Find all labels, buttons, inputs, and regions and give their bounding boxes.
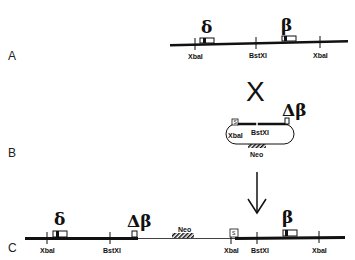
delta-gene-box xyxy=(200,38,214,43)
gene-targeting-diagram: A B C δ β XbaI BstXI XbaI X S xyxy=(0,0,355,260)
panel-c-locus: S δ Δβ β Neo XbaI BstXI XbaI BstXI XbaI xyxy=(25,207,345,254)
site-bstxi: BstXI xyxy=(103,247,121,254)
delta-gene-label: δ xyxy=(54,209,65,229)
panel-label-c: C xyxy=(8,241,17,255)
site-xbai: XbaI xyxy=(228,132,243,139)
delta-beta-gene-box xyxy=(132,231,137,237)
site-bstxi: BstXI xyxy=(249,52,267,59)
neo-cassette xyxy=(248,144,266,148)
beta-gene-label: β xyxy=(282,207,293,227)
panel-b-plasmid: S Δβ XbaI BstXI Neo xyxy=(226,100,306,158)
beta-gene-box xyxy=(283,230,297,236)
delta-beta-label: Δβ xyxy=(127,211,151,231)
neo-label: Neo xyxy=(178,226,191,233)
neo-label: Neo xyxy=(250,151,263,158)
site-xbai: XbaI xyxy=(188,53,203,60)
s-box: S xyxy=(230,229,238,237)
beta-gene-label: β xyxy=(281,15,292,35)
neo-cassette xyxy=(172,233,194,238)
crossover-symbol: X xyxy=(246,76,265,107)
delta-beta-label: Δβ xyxy=(282,100,306,120)
panel-label-a: A xyxy=(8,49,16,63)
site-bstxi: BstXI xyxy=(251,129,269,136)
delta-gene-box xyxy=(53,231,67,237)
site-bstxi: BstXI xyxy=(251,247,269,254)
site-xbai: XbaI xyxy=(224,247,239,254)
site-xbai: XbaI xyxy=(312,247,327,254)
delta-gene-label: δ xyxy=(201,17,212,37)
panel-label-b: B xyxy=(8,146,16,160)
beta-gene-box xyxy=(282,36,296,41)
site-xbai: XbaI xyxy=(40,247,55,254)
panel-a-locus: δ β XbaI BstXI XbaI xyxy=(170,15,348,60)
down-arrow-icon xyxy=(248,172,266,213)
site-xbai: XbaI xyxy=(313,52,328,59)
s-box: S xyxy=(232,119,238,125)
